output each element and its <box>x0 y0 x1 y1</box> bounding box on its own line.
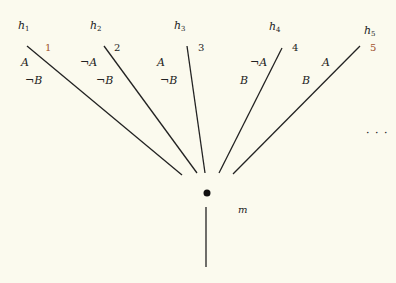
literal-b-3: ¬B <box>160 75 177 86</box>
literal-a-2: ¬A <box>80 57 97 68</box>
branch-number-4: 4 <box>292 43 298 53</box>
literal-a-5: A <box>322 57 330 68</box>
branch-number-2: 2 <box>114 43 120 53</box>
literal-b-4: B <box>240 75 248 86</box>
literal-a-4: ¬A <box>250 57 267 68</box>
literal-b-1: ¬B <box>25 75 42 86</box>
branch-number-3: 3 <box>198 43 204 53</box>
hypothesis-label-3: h3 <box>174 20 186 33</box>
literal-b-5: B <box>302 75 310 86</box>
hypothesis-label-1: h1 <box>18 20 30 33</box>
hypothesis-label-4: h4 <box>269 21 281 34</box>
branch-line-3 <box>187 46 205 173</box>
branch-line-2 <box>104 46 197 173</box>
branch-number-1: 1 <box>45 43 51 53</box>
node-dot <box>204 190 211 197</box>
branch-number-5: 5 <box>370 43 376 53</box>
literal-a-3: A <box>157 57 165 68</box>
hypothesis-label-2: h2 <box>90 20 102 33</box>
node-label: m <box>238 205 247 215</box>
literal-b-2: ¬B <box>96 75 113 86</box>
hypothesis-label-5: h5 <box>364 25 376 38</box>
literal-a-1: A <box>21 57 29 68</box>
ellipsis: · · · <box>366 128 388 139</box>
